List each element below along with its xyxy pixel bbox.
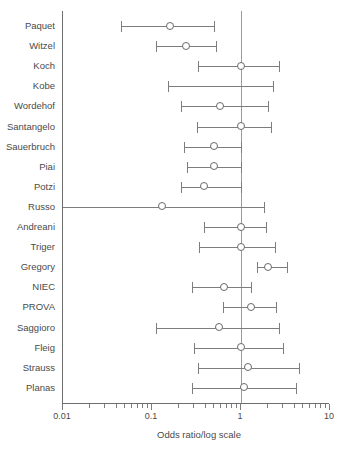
x-axis-title-text: Odds ratio/log scale [157,429,241,440]
ci-upper-cap [241,182,242,193]
confidence-interval-line [197,127,272,128]
axis-tick-minor [104,404,105,408]
x-axis-title: Odds ratio/log scale [0,429,358,440]
study-label-column: PaquetWitzelKochKobeWordehofSantangeloSa… [0,11,58,404]
study-label: Strauss [23,360,55,376]
axis-tick-minor [147,404,148,408]
odds-ratio-marker [237,122,245,130]
study-label: Andreani [17,219,55,235]
ci-upper-cap [268,101,269,112]
ci-upper-cap [216,41,217,52]
forest-plot: PaquetWitzelKochKobeWordehofSantangeloSa… [0,0,358,455]
odds-ratio-marker [237,243,245,251]
forest-row [63,360,329,376]
forest-row [63,38,329,54]
plot-area [62,11,329,404]
x-axis: 0.010.1110 [62,404,329,424]
confidence-interval-line [181,187,241,188]
axis-tick-label: 0.1 [145,411,158,421]
forest-row [63,380,329,396]
ci-lower-cap [156,323,157,334]
study-label: Wordehof [14,98,55,114]
ci-lower-cap [257,262,258,273]
odds-ratio-marker [244,363,252,371]
ci-lower-cap [197,122,198,133]
study-label: Planas [26,380,55,396]
odds-ratio-marker [166,22,174,30]
ci-lower-cap [156,41,157,52]
study-label: Triger [31,239,55,255]
odds-ratio-marker [264,263,272,271]
ci-lower-cap [181,101,182,112]
odds-ratio-marker [200,182,208,190]
axis-tick-minor [220,404,221,408]
study-label: Santangelo [7,119,55,135]
forest-row [63,239,329,255]
ci-lower-cap [223,302,224,313]
odds-ratio-marker [247,303,255,311]
ci-lower-cap [192,383,193,394]
forest-row [63,279,329,295]
study-label: Piai [39,159,55,175]
odds-ratio-marker [182,42,190,50]
axis-tick-minor [193,404,194,408]
axis-tick-minor [267,404,268,408]
odds-ratio-marker [210,162,218,170]
ci-upper-cap [283,343,284,354]
axis-tick-minor [294,404,295,408]
axis-tick-major [240,404,241,410]
forest-row [63,199,329,215]
odds-ratio-marker [215,323,223,331]
forest-row [63,259,329,275]
axis-tick-minor [131,404,132,408]
ci-lower-cap [184,142,185,153]
forest-row [63,159,329,175]
ci-lower-cap [192,282,193,293]
forest-row [63,139,329,155]
axis-tick-minor [231,404,232,408]
axis-tick-minor [236,404,237,408]
odds-ratio-marker [237,343,245,351]
study-label: Witzel [29,38,55,54]
ci-upper-cap [266,222,267,233]
axis-tick-major [151,404,152,410]
axis-tick-minor [315,404,316,408]
axis-tick-minor [124,404,125,408]
ci-upper-cap [276,302,277,313]
odds-ratio-marker [216,102,224,110]
confidence-interval-line [257,267,287,268]
ci-lower-cap [204,222,205,233]
ci-lower-cap [198,61,199,72]
forest-row [63,18,329,34]
ci-upper-cap [251,282,252,293]
ci-upper-cap [273,81,274,92]
study-label: Russo [28,199,55,215]
axis-tick-major [329,404,330,410]
forest-row [63,119,329,135]
axis-tick-minor [89,404,90,408]
odds-ratio-marker [237,223,245,231]
axis-tick-minor [325,404,326,408]
confidence-interval-line [204,227,266,228]
ci-lower-cap [198,363,199,374]
study-label: Kobe [33,78,55,94]
axis-tick-minor [142,404,143,408]
forest-row [63,58,329,74]
axis-tick-minor [137,404,138,408]
odds-ratio-marker [237,62,245,70]
odds-ratio-marker [158,202,166,210]
ci-upper-cap [279,61,280,72]
axis-tick-minor [320,404,321,408]
ci-upper-cap [275,242,276,253]
study-label: NIEC [32,279,55,295]
forest-row [63,219,329,235]
axis-tick-minor [282,404,283,408]
study-label: Sauerbruch [6,139,55,155]
ci-upper-cap [271,122,272,133]
study-label: Koch [33,58,55,74]
confidence-interval-line [168,86,274,87]
ci-lower-cap [121,21,122,32]
ci-lower-cap [187,162,188,173]
axis-tick-minor [178,404,179,408]
axis-tick-label: 10 [324,411,334,421]
